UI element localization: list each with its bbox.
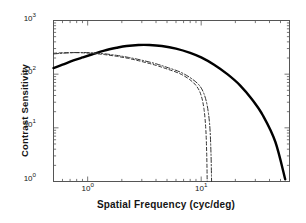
x-tick-0-exponent: 0 [90, 181, 93, 188]
y-tick-2-exponent: 2 [33, 64, 36, 71]
y-tick-3-mantissa: 10 [24, 14, 33, 23]
y-tick-label-3: 103 [0, 15, 36, 25]
y-tick-1-exponent: 1 [33, 117, 36, 124]
y-axis-title: Contrast Sensitivity [19, 41, 30, 181]
x-tick-label-0: 100 [68, 185, 108, 193]
x-tick-1-exponent: 1 [204, 181, 207, 188]
x-tick-1-mantissa: 10 [195, 184, 204, 193]
x-axis-title: Spatial Frequency (cyc/deg) [40, 199, 292, 210]
y-tick-3-exponent: 3 [33, 11, 36, 18]
plot-canvas [0, 0, 306, 223]
y-tick-0-exponent: 0 [33, 171, 36, 178]
csf-figure: 100 101 102 103 100 101 Contrast Sensiti… [0, 0, 306, 223]
x-tick-label-1: 101 [181, 185, 221, 193]
